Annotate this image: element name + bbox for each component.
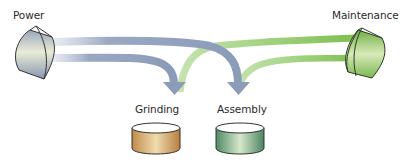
flow-power-to-grinding: [52, 58, 174, 84]
flow-maintenance-to-assembly: [238, 58, 358, 92]
maintenance-label: Maintenance: [332, 9, 399, 21]
assembly-label: Assembly: [217, 103, 267, 115]
flow-canvas: [0, 0, 407, 164]
resource-flow-diagram: Power Maintenance Grinding Assembly: [0, 0, 407, 164]
power-flows: [52, 41, 250, 95]
arrowhead-assembly: [227, 82, 250, 95]
grinding-target-icon: [132, 123, 180, 154]
assembly-target-icon: [216, 123, 264, 154]
grinding-label: Grinding: [135, 103, 179, 115]
power-label: Power: [13, 9, 44, 21]
power-source-icon: [15, 26, 54, 79]
